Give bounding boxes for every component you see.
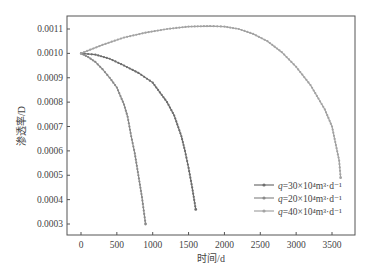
series-marker [305, 79, 307, 81]
series-marker [86, 50, 88, 52]
series-marker [339, 170, 341, 172]
series-marker [309, 84, 311, 86]
series-marker [288, 58, 290, 60]
series-marker [138, 177, 140, 179]
series-marker [136, 165, 138, 167]
series-marker [181, 138, 183, 140]
y-tick-label: 0.0003 [37, 219, 63, 229]
series-marker [91, 53, 93, 55]
series-marker [94, 53, 96, 55]
series-marker [144, 220, 146, 222]
series-marker [126, 113, 128, 115]
x-tick-label: 3000 [287, 240, 306, 250]
series-marker [330, 123, 332, 125]
series-marker [186, 160, 188, 162]
series-marker [119, 95, 121, 97]
series-marker [85, 55, 87, 57]
series-marker [134, 155, 136, 157]
series-marker [106, 74, 108, 76]
series-marker [118, 92, 120, 94]
series-marker [100, 55, 102, 57]
series-marker [177, 126, 179, 128]
series-marker [143, 209, 145, 211]
series-marker [148, 31, 150, 33]
series-marker [120, 63, 122, 65]
series-marker [331, 125, 333, 127]
series-marker [176, 123, 178, 125]
series-marker [135, 158, 137, 160]
legend: q=30×10⁴m³·d⁻¹q=20×10⁴m³·d⁻¹q=40×10⁴m³·d… [254, 181, 342, 217]
series-marker [187, 163, 189, 165]
series-marker [200, 25, 202, 27]
series-marker [336, 150, 338, 152]
series-marker [89, 58, 91, 60]
series-marker [324, 108, 326, 110]
series-marker [157, 29, 159, 31]
series-marker [131, 139, 133, 141]
series-marker [114, 40, 116, 42]
series-marker [110, 79, 112, 81]
series-marker [106, 57, 108, 59]
series-marker [321, 103, 323, 105]
series-marker [223, 25, 225, 27]
series-marker [128, 125, 130, 127]
series-marker [335, 144, 337, 146]
series-marker [180, 135, 182, 137]
series-marker [189, 173, 191, 175]
series-marker [179, 132, 181, 134]
series-marker [178, 129, 180, 131]
series-marker [114, 84, 116, 86]
x-tick-label: 500 [110, 240, 125, 250]
series-marker [182, 144, 184, 146]
series-marker [116, 86, 118, 88]
series-marker [283, 53, 285, 55]
series-marker [194, 25, 196, 27]
series-marker [162, 96, 164, 98]
series-marker [303, 76, 305, 78]
series-marker [123, 36, 125, 38]
series-marker [109, 77, 111, 79]
series-marker [129, 129, 131, 131]
series-marker [258, 36, 260, 38]
series-marker [130, 135, 132, 137]
y-tick-label: 0.0007 [37, 122, 63, 132]
series-marker [191, 186, 193, 188]
series-marker [98, 45, 100, 47]
series-marker [307, 81, 309, 83]
series-marker [126, 66, 128, 68]
series-marker [128, 122, 130, 124]
series-marker [141, 199, 143, 201]
series-marker [134, 152, 136, 154]
series-marker [166, 28, 168, 30]
y-tick-label: 0.0010 [37, 48, 63, 58]
series-marker [126, 36, 128, 38]
x-tick-label: 0 [79, 240, 84, 250]
series-marker [169, 106, 171, 108]
series-marker [130, 132, 132, 134]
series-marker [216, 25, 218, 27]
series-marker [322, 106, 324, 108]
series-marker [80, 52, 82, 54]
series-marker [160, 29, 162, 31]
series-marker [83, 51, 85, 53]
series-marker [327, 117, 329, 119]
series-marker [185, 153, 187, 155]
x-tick-label: 1500 [179, 240, 198, 250]
series-marker [326, 114, 328, 116]
series-marker [123, 103, 125, 105]
series-marker [170, 109, 172, 111]
series-marker [117, 39, 119, 41]
series-marker [285, 56, 287, 58]
series-marker [95, 46, 97, 48]
series-marker [185, 157, 187, 159]
series-marker [246, 31, 248, 33]
y-tick-label: 0.0004 [37, 195, 63, 205]
series-marker [241, 29, 243, 31]
series-marker [167, 104, 169, 106]
series-marker [203, 25, 205, 27]
series-marker [197, 25, 199, 27]
series-marker [97, 63, 99, 65]
series-marker [337, 156, 339, 158]
series-marker [232, 27, 234, 29]
legend-label: q=30×10⁴m³·d⁻¹ [278, 181, 342, 191]
